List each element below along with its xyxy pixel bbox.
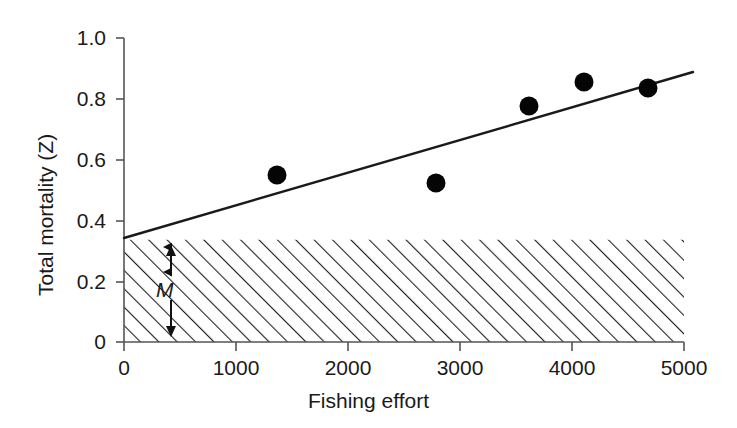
x-tick-label-0: 0 xyxy=(84,357,164,378)
y-tick-label-0: 0 xyxy=(44,331,106,352)
data-point xyxy=(427,174,446,193)
y-axis xyxy=(116,38,124,342)
data-point xyxy=(520,97,539,116)
natural-mortality-shaded-region xyxy=(124,239,684,342)
data-points xyxy=(268,73,658,193)
x-axis xyxy=(124,342,684,351)
y-tick-label-0.8: 0.8 xyxy=(44,88,106,109)
natural-mortality-label: M xyxy=(156,279,174,300)
data-point xyxy=(575,73,594,92)
data-point xyxy=(639,79,658,98)
regression-line xyxy=(124,72,693,238)
x-tick-label-5000: 5000 xyxy=(644,357,724,378)
x-tick-label-4000: 4000 xyxy=(532,357,612,378)
y-tick-label-1.0: 1.0 xyxy=(44,27,106,48)
chart-figure: 1.0 0.8 0.6 0.4 0.2 0 0 1000 2000 3000 4… xyxy=(0,0,737,428)
x-tick-label-3000: 3000 xyxy=(420,357,500,378)
x-axis-title: Fishing effort xyxy=(0,389,737,413)
y-axis-title: Total mortality (Z) xyxy=(34,134,58,296)
data-point xyxy=(268,166,287,185)
x-tick-label-1000: 1000 xyxy=(196,357,276,378)
x-tick-label-2000: 2000 xyxy=(308,357,388,378)
